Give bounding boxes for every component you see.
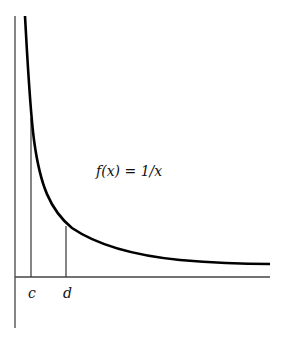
marker-label-d: d bbox=[63, 285, 72, 301]
curve-reciprocal bbox=[25, 16, 270, 264]
function-plot: f(x) = 1/x c d bbox=[0, 0, 284, 340]
marker-label-c: c bbox=[28, 285, 36, 301]
function-label: f(x) = 1/x bbox=[95, 163, 162, 179]
